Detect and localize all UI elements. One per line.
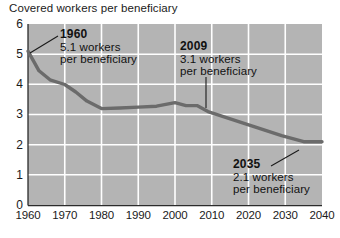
x-axis-tick-2030: 2030 [265,209,305,221]
x-axis-tick-2000: 2000 [155,209,195,221]
y-axis-tick-2: 2 [5,140,23,150]
y-axis-tick-6: 6 [5,19,23,29]
x-axis-tick-1980: 1980 [82,209,122,221]
x-axis-tick-1970: 1970 [45,209,85,221]
chart-canvas [0,0,340,238]
annotation-2009-line1: 3.1 workers [180,53,257,66]
x-axis-tick-2010: 2010 [192,209,232,221]
x-axis-tick-2020: 2020 [229,209,269,221]
annotation-1960-line2: per beneficiary [60,53,137,66]
annotation-2035-line1: 2.1 workers [233,171,310,184]
x-axis-tick-2040: 2040 [302,209,340,221]
annotation-1960: 1960 5.1 workers per beneficiary [60,28,137,66]
y-axis-tick-1: 1 [5,170,23,180]
annotation-2035: 2035 2.1 workers per beneficiary [233,158,310,196]
x-axis-tick-1990: 1990 [118,209,158,221]
annotation-2009: 2009 3.1 workers per beneficiary [180,40,257,78]
y-axis-tick-5: 5 [5,49,23,59]
y-axis-tick-3: 3 [5,109,23,119]
annotation-2035-line2: per beneficiary [233,183,310,196]
annotation-1960-line1: 5.1 workers [60,41,137,54]
annotation-1960-year: 1960 [60,28,137,41]
chart-container: Covered workers per beneficiary [0,0,340,238]
x-axis-tick-1960: 1960 [8,209,48,221]
annotation-2035-year: 2035 [233,158,310,171]
annotation-2009-line2: per beneficiary [180,65,257,78]
y-axis-tick-4: 4 [5,79,23,89]
annotation-2009-year: 2009 [180,40,257,53]
